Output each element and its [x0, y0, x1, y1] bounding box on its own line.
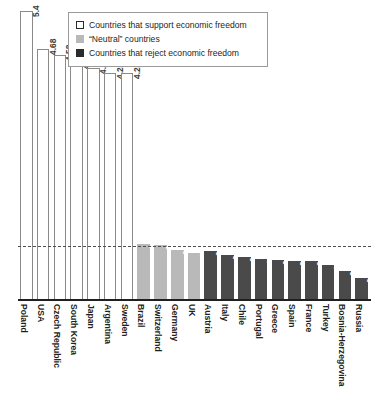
- legend-label-support: Countries that support economic freedom: [89, 20, 247, 31]
- bar-spain[interactable]: 0.73: [288, 261, 301, 300]
- bar-uk[interactable]: 0.88: [188, 253, 201, 300]
- category-label-text: Portugal: [252, 304, 265, 339]
- category-label-text: Germany: [168, 304, 181, 341]
- bar-japan[interactable]: 4.33: [87, 68, 100, 300]
- white-square-icon: [76, 21, 84, 29]
- bar-sweden[interactable]: 4.24: [121, 73, 134, 300]
- bar-slot: 0.73: [288, 0, 301, 300]
- category-label-japan: Japan: [87, 302, 100, 412]
- bar-russia[interactable]: 0.42: [355, 278, 368, 301]
- category-label-text: UK: [185, 304, 198, 316]
- x-axis-line: [18, 299, 371, 301]
- bar-slot: 4.68: [37, 0, 50, 300]
- category-label-austria: Austria: [204, 302, 217, 412]
- bar-brazil[interactable]: 1.04: [137, 244, 150, 300]
- category-label-text: France: [302, 304, 315, 332]
- category-label-russia: Russia: [355, 302, 368, 412]
- legend: Countries that support economic freedom …: [68, 12, 268, 67]
- category-label-germany: Germany: [171, 302, 184, 412]
- category-label-text: South Korea: [68, 304, 81, 355]
- legend-item-neutral: “Neutral” countries: [76, 32, 260, 46]
- category-label-argentina: Argentina: [104, 302, 117, 412]
- category-label-text: Japan: [84, 304, 97, 329]
- bar-poland[interactable]: 5.4: [20, 11, 33, 300]
- bar-slot: 0.54: [339, 0, 352, 300]
- black-square-icon: [76, 49, 84, 57]
- bar-slot: 0.42: [355, 0, 368, 300]
- bar-chile[interactable]: 0.8: [238, 257, 251, 300]
- bar-slot: 4.58: [54, 0, 67, 300]
- category-label-chile: Chile: [238, 302, 251, 412]
- legend-label-neutral: “Neutral” countries: [89, 34, 160, 45]
- category-label-text: Switzerland: [151, 304, 164, 352]
- category-label-text: USA: [34, 304, 47, 322]
- bar-argentina[interactable]: 4.24: [104, 73, 117, 300]
- category-label-portugal: Portugal: [255, 302, 268, 412]
- category-label-text: Sweden: [118, 304, 131, 336]
- category-label-poland: Poland: [20, 302, 33, 412]
- category-label-text: Italy: [219, 304, 232, 321]
- bar-italy[interactable]: 0.84: [221, 255, 234, 300]
- category-label-spain: Spain: [288, 302, 301, 412]
- bar-portugal[interactable]: 0.76: [255, 259, 268, 300]
- category-label-text: Chile: [235, 304, 248, 325]
- category-label-czech-republic: Czech Republic: [54, 302, 67, 412]
- category-label-usa: USA: [37, 302, 50, 412]
- gray-square-icon: [76, 35, 84, 43]
- bar-slot: 0.75: [272, 0, 285, 300]
- category-label-text: Poland: [17, 304, 30, 333]
- category-label-switzerland: Switzerland: [154, 302, 167, 412]
- legend-item-support: Countries that support economic freedom: [76, 18, 260, 32]
- category-label-bosnia-herzegovina: Bosnia-Herzegovina: [339, 302, 352, 412]
- reference-line: [18, 246, 371, 247]
- category-axis-labels: PolandUSACzech RepublicSouth KoreaJapanA…: [18, 302, 370, 413]
- category-label-text: Turkey: [319, 304, 332, 332]
- category-label-text: Austria: [202, 304, 215, 334]
- category-label-text: Spain: [286, 304, 299, 327]
- category-label-text: Russia: [353, 304, 366, 332]
- legend-label-reject: Countries that reject economic freedom: [89, 48, 239, 59]
- bar-slot: 0.72: [305, 0, 318, 300]
- category-label-uk: UK: [188, 302, 201, 412]
- category-label-france: France: [305, 302, 318, 412]
- bar-switzerland[interactable]: 1.02: [154, 245, 167, 300]
- category-label-text: Brazil: [135, 304, 148, 327]
- bar-slot: 0.65: [322, 0, 335, 300]
- bar-greece[interactable]: 0.75: [272, 260, 285, 300]
- bar-bosnia-herzegovina[interactable]: 0.54: [339, 271, 352, 300]
- category-label-text: Czech Republic: [51, 304, 64, 368]
- bar-usa[interactable]: 4.68: [37, 49, 50, 300]
- category-label-text: Bosnia-Herzegovina: [336, 304, 349, 387]
- category-label-italy: Italy: [221, 302, 234, 412]
- bar-turkey[interactable]: 0.65: [322, 265, 335, 300]
- bar-south-korea[interactable]: 4.42: [70, 63, 83, 300]
- bar-slot: 5.4: [20, 0, 33, 300]
- bar-germany[interactable]: 0.94: [171, 250, 184, 300]
- category-label-brazil: Brazil: [137, 302, 150, 412]
- bar-czech-republic[interactable]: 4.58: [54, 55, 67, 300]
- legend-item-reject: Countries that reject economic freedom: [76, 46, 260, 60]
- category-label-text: Greece: [269, 304, 282, 333]
- bar-value-label: 0.42: [365, 266, 375, 282]
- category-label-text: Argentina: [101, 304, 114, 344]
- bar-austria[interactable]: 0.92: [204, 251, 217, 300]
- bar-france[interactable]: 0.72: [305, 261, 318, 300]
- bar-chart: 5.44.684.584.424.334.244.241.041.020.940…: [0, 0, 390, 413]
- category-label-south-korea: South Korea: [70, 302, 83, 412]
- category-label-sweden: Sweden: [121, 302, 134, 412]
- category-label-turkey: Turkey: [322, 302, 335, 412]
- category-label-greece: Greece: [272, 302, 285, 412]
